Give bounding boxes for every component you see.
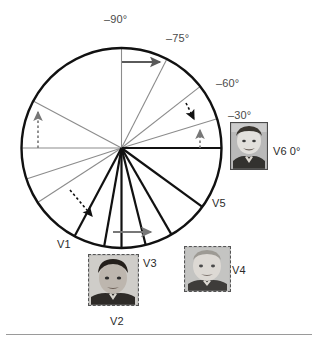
arrow-minus60-dashed-down (186, 103, 194, 119)
angle-label-minus90: –90° (104, 14, 127, 25)
spoke-minus75 (122, 59, 167, 148)
thumbnail-v4 (184, 246, 231, 292)
spoke-upper-left (33, 101, 121, 148)
thumbnail-v2 (88, 254, 139, 306)
view-label-v1: V1 (57, 239, 71, 250)
thumbnail-v6 (230, 122, 268, 170)
view-label-v5: V5 (212, 198, 226, 209)
angle-label-minus60: –60° (216, 78, 239, 89)
angle-label-minus75: –75° (166, 33, 189, 44)
view-label-v4: V4 (232, 265, 246, 276)
face-image-v2 (89, 255, 138, 305)
footer-rule (6, 334, 312, 335)
spoke-v4 (122, 148, 172, 235)
spoke-minus60 (122, 86, 201, 148)
arrow-lower-left-dashed-down (70, 190, 92, 216)
spoke-lower-left-b (38, 148, 122, 202)
angle-label-minus30: –30° (228, 110, 251, 121)
angle-wheel-diagram (0, 0, 318, 346)
view-label-v2: V2 (110, 316, 124, 327)
spoke-minus30 (122, 119, 218, 148)
view-label-v3: V3 (143, 258, 157, 269)
face-image-v6 (231, 123, 267, 169)
face-image-v4 (185, 247, 230, 291)
view-label-v6: V6 0° (273, 146, 301, 157)
pose-angle-figure: –90° –75° –60° –30° V6 0° V5 V1 V3 V4 V2 (0, 0, 318, 346)
